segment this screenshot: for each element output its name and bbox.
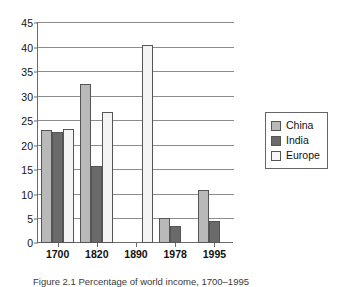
bars-1700 [41, 22, 74, 243]
bar-group-1978: 1978 [156, 22, 195, 243]
legend-label-india: India [286, 135, 309, 146]
bar-group-1700: 1700 [38, 22, 77, 243]
chart-legend: China India Europe [265, 112, 328, 169]
bars-1890 [120, 22, 153, 243]
ytick-label-30: 30 [21, 91, 33, 102]
xtick-label-1978: 1978 [164, 249, 187, 260]
bar-groups: 1700 1820 [38, 22, 234, 243]
xtick-mark-1820 [97, 243, 98, 247]
bar-india-1978[interactable] [170, 226, 181, 243]
xtick-mark-1995 [214, 243, 215, 247]
ytick-label-35: 35 [21, 67, 33, 78]
bar-india-1995[interactable] [209, 221, 220, 243]
ytick-label-10: 10 [21, 190, 33, 201]
bar-europe-1890[interactable] [142, 45, 153, 243]
ytick-label-15: 15 [21, 165, 33, 176]
legend-swatch-india-icon [271, 136, 281, 146]
figure-caption: Figure 2.1 Percentage of world income, 1… [33, 276, 333, 287]
legend-label-europe: Europe [286, 150, 320, 161]
bar-china-1820[interactable] [80, 84, 91, 243]
ytick-label-20: 20 [21, 141, 33, 152]
xtick-mark-1978 [175, 243, 176, 247]
bar-china-1995[interactable] [198, 190, 209, 243]
chart-plot-area: 45 40 35 30 25 20 [0, 0, 351, 268]
xtick-label-1995: 1995 [203, 249, 226, 260]
bar-group-1890: 1890 [116, 22, 155, 243]
bars-1995 [198, 22, 231, 243]
ytick-label-40: 40 [21, 42, 33, 53]
legend-item-europe[interactable]: Europe [271, 148, 320, 163]
xtick-mark-1890 [136, 243, 137, 247]
bar-group-1995: 1995 [195, 22, 234, 243]
bar-china-1978[interactable] [159, 218, 170, 243]
legend-swatch-china-icon [271, 121, 281, 131]
xtick-label-1700: 1700 [46, 249, 69, 260]
bar-group-1820: 1820 [77, 22, 116, 243]
bar-europe-1820[interactable] [102, 112, 113, 243]
ytick-label-45: 45 [21, 18, 33, 29]
xtick-mark-1700 [58, 243, 59, 247]
bar-india-1700[interactable] [52, 132, 63, 243]
bar-china-1700[interactable] [41, 130, 52, 243]
ytick-label-25: 25 [21, 116, 33, 127]
legend-swatch-europe-icon [271, 151, 281, 161]
axes: 45 40 35 30 25 20 [37, 22, 233, 243]
bars-1978 [159, 22, 192, 243]
ytick-label-0: 0 [27, 238, 33, 249]
ytick-label-5: 5 [27, 214, 33, 225]
legend-label-china: China [286, 120, 313, 131]
xtick-label-1890: 1890 [124, 249, 147, 260]
legend-item-china[interactable]: China [271, 118, 320, 133]
bar-india-1820[interactable] [91, 166, 102, 243]
xtick-label-1820: 1820 [85, 249, 108, 260]
legend-item-india[interactable]: India [271, 133, 320, 148]
bar-europe-1700[interactable] [63, 129, 74, 243]
bars-1820 [80, 22, 113, 243]
